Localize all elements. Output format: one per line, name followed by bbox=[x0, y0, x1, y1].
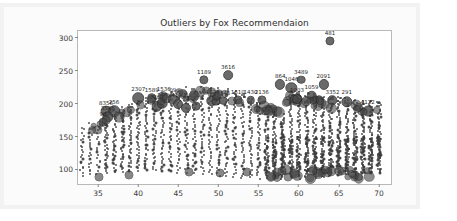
data-point bbox=[83, 135, 85, 137]
data-point bbox=[218, 158, 221, 161]
data-point bbox=[217, 125, 219, 127]
data-point bbox=[175, 120, 178, 123]
outlier-marker bbox=[199, 75, 208, 84]
data-point bbox=[89, 146, 91, 148]
data-point bbox=[275, 141, 277, 143]
data-point bbox=[297, 138, 299, 140]
data-point bbox=[323, 132, 325, 134]
data-point bbox=[90, 162, 92, 164]
data-point bbox=[337, 129, 340, 132]
data-point bbox=[121, 136, 123, 138]
data-point bbox=[136, 154, 138, 156]
outlier-marker bbox=[89, 126, 97, 134]
data-point bbox=[115, 139, 117, 141]
data-point bbox=[194, 152, 197, 155]
data-point bbox=[289, 126, 291, 128]
data-point bbox=[194, 160, 197, 163]
data-point bbox=[96, 150, 99, 153]
data-point bbox=[297, 158, 299, 160]
outlier-label: 1189 bbox=[197, 69, 211, 75]
data-point bbox=[185, 113, 187, 115]
data-point bbox=[184, 127, 186, 129]
y-tick-label: 300 bbox=[59, 33, 78, 42]
outlier-label: 4122 bbox=[361, 99, 375, 105]
data-point bbox=[338, 137, 340, 139]
data-point bbox=[89, 173, 91, 175]
data-point bbox=[155, 169, 157, 171]
data-point bbox=[259, 161, 261, 163]
data-point bbox=[259, 128, 261, 130]
data-point bbox=[152, 162, 155, 165]
data-point bbox=[160, 153, 162, 155]
data-point bbox=[363, 138, 365, 140]
data-point bbox=[138, 128, 140, 130]
data-point bbox=[353, 139, 355, 141]
data-point bbox=[139, 121, 141, 123]
data-point bbox=[192, 152, 194, 154]
data-point bbox=[249, 114, 251, 116]
plot-canvas: 4811189361686434891046209123071589153609… bbox=[78, 31, 391, 184]
data-point bbox=[203, 150, 205, 152]
data-point bbox=[209, 148, 211, 150]
data-point bbox=[328, 122, 331, 125]
data-point bbox=[120, 163, 122, 165]
data-point bbox=[315, 136, 317, 138]
data-point bbox=[323, 111, 325, 113]
data-point bbox=[161, 152, 163, 154]
data-point bbox=[258, 145, 260, 147]
data-point bbox=[377, 130, 379, 132]
data-point bbox=[337, 110, 339, 112]
data-point bbox=[138, 155, 140, 157]
data-point bbox=[353, 124, 355, 126]
data-point bbox=[167, 141, 170, 144]
y-tick-label: 150 bbox=[59, 132, 78, 141]
data-point bbox=[339, 119, 341, 121]
chart-title: Outliers by Fox Recommendaion bbox=[77, 18, 392, 28]
data-point bbox=[348, 148, 350, 150]
data-point bbox=[121, 161, 123, 163]
data-point bbox=[218, 111, 220, 113]
data-point bbox=[256, 169, 258, 171]
data-point bbox=[162, 110, 165, 113]
outlier-label: 1046 bbox=[284, 76, 298, 82]
data-point bbox=[161, 162, 163, 164]
data-point bbox=[225, 140, 227, 142]
data-point bbox=[207, 107, 210, 110]
data-point bbox=[202, 128, 204, 130]
data-point bbox=[130, 130, 132, 132]
data-point bbox=[185, 129, 188, 132]
data-point bbox=[337, 150, 339, 152]
data-point bbox=[89, 152, 91, 154]
data-point bbox=[274, 137, 276, 139]
data-point bbox=[378, 152, 381, 155]
data-point bbox=[305, 154, 307, 156]
data-point bbox=[82, 166, 84, 168]
data-point bbox=[209, 164, 211, 166]
data-point bbox=[281, 136, 284, 139]
data-point bbox=[267, 119, 270, 122]
data-point bbox=[289, 152, 291, 154]
data-point bbox=[346, 126, 348, 128]
data-point bbox=[280, 121, 282, 123]
data-point bbox=[235, 146, 237, 148]
data-point bbox=[243, 156, 245, 158]
data-point bbox=[233, 173, 235, 175]
x-tick-label: 60 bbox=[294, 184, 304, 198]
data-point bbox=[122, 171, 124, 173]
data-point bbox=[375, 163, 378, 166]
data-point bbox=[104, 139, 106, 141]
data-point bbox=[153, 146, 155, 148]
data-point bbox=[176, 140, 178, 142]
data-point bbox=[128, 145, 130, 147]
data-point bbox=[353, 126, 355, 128]
data-point bbox=[219, 151, 221, 153]
data-point bbox=[379, 171, 382, 174]
data-point bbox=[305, 156, 307, 158]
outlier-marker bbox=[192, 102, 201, 111]
data-point bbox=[113, 147, 115, 149]
data-point bbox=[209, 122, 211, 124]
data-point bbox=[88, 155, 90, 157]
data-point bbox=[258, 157, 260, 159]
data-point bbox=[280, 158, 283, 161]
data-point bbox=[203, 112, 205, 114]
